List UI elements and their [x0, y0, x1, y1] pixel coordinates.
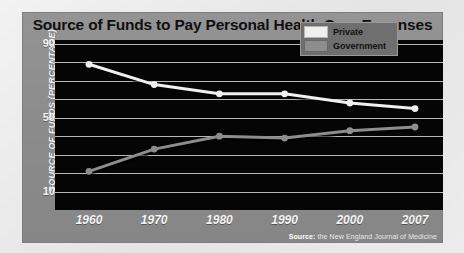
legend-label-private: Private: [333, 27, 363, 37]
legend-swatch-private: [304, 26, 328, 38]
chart-page: Source of Funds to Pay Personal Health C…: [0, 0, 464, 253]
chart-legend: Private Government: [300, 22, 398, 56]
y-tick-label: 10: [29, 185, 55, 197]
data-point: [346, 127, 353, 134]
x-tick-label: 1960: [64, 213, 114, 227]
data-point: [151, 81, 158, 88]
plot-area: [55, 40, 443, 210]
data-point: [346, 100, 353, 107]
series-layer: [55, 40, 443, 210]
series-line: [89, 64, 415, 108]
data-point: [216, 90, 223, 97]
chart-card: Source of Funds to Pay Personal Health C…: [22, 12, 443, 243]
y-tick-label: 50: [29, 111, 55, 123]
x-tick-label: 1980: [194, 213, 244, 227]
data-point: [281, 135, 288, 142]
data-point: [412, 105, 419, 112]
legend-swatch-government: [304, 40, 328, 52]
data-point: [281, 90, 288, 97]
source-note: Source: the New England Journal of Medic…: [289, 233, 437, 240]
source-text: the New England Journal of Medicine: [318, 233, 437, 240]
legend-item-private: Private: [304, 25, 394, 39]
x-tick-label: 1970: [129, 213, 179, 227]
x-tick-label: 2000: [325, 213, 375, 227]
series-line: [89, 127, 415, 171]
data-point: [86, 168, 93, 175]
data-point: [86, 61, 93, 68]
y-tick-label: 90: [29, 37, 55, 49]
data-point: [412, 124, 419, 131]
series-line-shadow: [90, 128, 416, 172]
legend-item-government: Government: [304, 39, 394, 53]
x-tick-label: 2007: [390, 213, 440, 227]
x-tick-label: 1990: [260, 213, 310, 227]
source-prefix: Source:: [289, 233, 316, 240]
data-point: [151, 146, 158, 153]
data-point: [216, 133, 223, 140]
legend-label-government: Government: [333, 41, 386, 51]
